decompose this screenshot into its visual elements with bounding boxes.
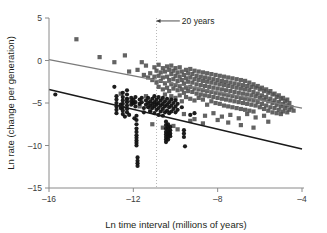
data-point-square: [264, 103, 268, 107]
data-point-square: [260, 93, 264, 97]
data-point-square: [270, 110, 274, 114]
data-point-square: [239, 123, 243, 127]
data-point-square: [239, 107, 243, 111]
data-point-square: [192, 69, 196, 73]
data-point-square: [211, 86, 215, 90]
data-point-square: [186, 71, 190, 75]
data-point-square: [256, 92, 260, 96]
data-point-circle: [133, 104, 137, 108]
data-point-square: [245, 92, 249, 96]
data-point-square: [241, 92, 245, 96]
y-tick-label: –10: [28, 141, 42, 151]
y-tick-label: 0: [37, 56, 42, 66]
data-point-square: [167, 78, 171, 82]
data-point-square: [148, 71, 152, 75]
data-point-square: [194, 74, 198, 78]
data-point-circle: [180, 105, 184, 109]
data-point-square: [201, 70, 205, 74]
data-point-square: [135, 68, 139, 72]
data-point-square: [222, 103, 226, 107]
data-point-square: [232, 81, 236, 85]
data-point-square: [140, 60, 144, 64]
data-point-square: [256, 100, 260, 104]
data-point-square: [232, 90, 236, 94]
data-point-square: [220, 79, 224, 83]
data-point-square: [228, 81, 232, 85]
data-point-square: [266, 120, 270, 124]
data-point-square: [176, 127, 180, 131]
data-point-square: [182, 91, 186, 95]
data-point-square: [199, 83, 203, 87]
data-point-square: [159, 70, 163, 74]
data-point-square: [182, 112, 186, 116]
data-point-square: [203, 114, 207, 118]
y-tick-label: 5: [37, 13, 42, 23]
data-point-square: [243, 79, 247, 83]
data-point-square: [203, 84, 207, 88]
data-point-square: [218, 102, 222, 106]
data-point-square: [254, 115, 258, 119]
data-point-square: [157, 63, 161, 67]
data-point-square: [178, 93, 182, 97]
data-point-circle: [135, 164, 139, 168]
data-point-square: [287, 101, 291, 105]
data-point-square: [213, 73, 217, 77]
data-point-square: [194, 82, 198, 86]
data-point-square: [216, 86, 220, 90]
data-point-square: [224, 80, 228, 84]
data-point-square: [98, 55, 102, 59]
y-tick-label: –15: [28, 183, 42, 193]
data-point-circle: [192, 111, 196, 115]
data-point-square: [268, 97, 272, 101]
data-point-circle: [183, 144, 187, 148]
data-point-square: [192, 117, 196, 121]
y-tick-label: –5: [33, 98, 43, 108]
data-point-square: [161, 75, 165, 79]
data-point-square: [167, 89, 171, 93]
data-point-square: [228, 89, 232, 93]
data-point-circle: [123, 115, 127, 119]
data-point-square: [169, 64, 173, 68]
data-point-square: [186, 89, 190, 93]
data-point-circle: [114, 111, 118, 115]
data-point-square: [232, 99, 236, 103]
data-point-square: [268, 105, 272, 109]
data-point-square: [123, 53, 127, 57]
data-point-square: [161, 87, 165, 91]
data-point-square: [245, 112, 249, 116]
data-point-square: [241, 101, 245, 105]
data-point-square: [245, 102, 249, 106]
data-point-square: [220, 115, 224, 119]
data-point-square: [218, 74, 222, 78]
data-point-square: [235, 77, 239, 81]
data-point-square: [224, 98, 228, 102]
data-point-square: [144, 64, 148, 68]
data-point-square: [142, 73, 146, 77]
annotation-label: 20 years: [182, 16, 215, 26]
data-point-square: [230, 105, 234, 109]
data-point-square: [228, 98, 232, 102]
data-point-square: [157, 85, 161, 89]
data-point-square: [192, 98, 196, 102]
data-point-square: [216, 96, 220, 100]
data-point-circle: [125, 92, 129, 96]
data-point-square: [203, 93, 207, 97]
data-point-circle: [53, 92, 57, 96]
data-point-square: [209, 72, 213, 76]
data-point-square: [211, 95, 215, 99]
data-point-square: [152, 75, 156, 79]
data-point-square: [228, 113, 232, 117]
data-point-circle: [134, 122, 138, 126]
data-point-square: [237, 116, 241, 120]
plot-canvas: –16–12–8–450–5–10–15 20 years Ln time in…: [0, 0, 327, 233]
data-point-square: [186, 80, 190, 84]
data-point-square: [163, 69, 167, 73]
data-point-square: [291, 109, 295, 113]
scatter-plot-figure: –16–12–8–450–5–10–15 20 years Ln time in…: [0, 0, 327, 233]
data-point-square: [209, 99, 213, 103]
data-point-square: [167, 68, 171, 72]
data-point-square: [150, 122, 154, 126]
x-axis-title: Ln time interval (millions of years): [105, 219, 247, 230]
data-point-square: [251, 109, 255, 113]
data-point-square: [205, 103, 209, 107]
